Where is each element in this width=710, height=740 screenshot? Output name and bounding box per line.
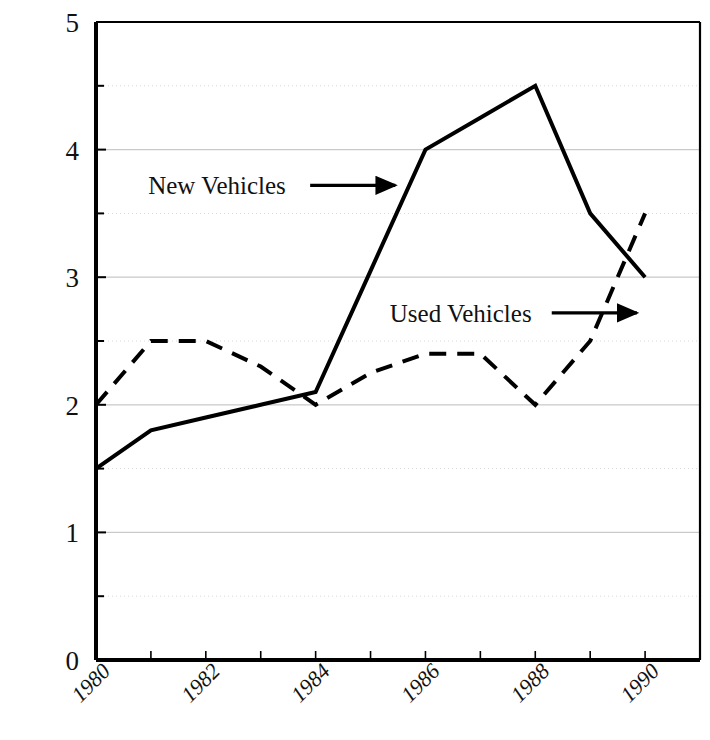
chart-container: 012345 198019821984198619881990 New Vehi… bbox=[0, 0, 710, 740]
y-tick-label: 5 bbox=[66, 8, 80, 38]
line-chart: 012345 198019821984198619881990 New Vehi… bbox=[0, 0, 710, 740]
annotation-label: New Vehicles bbox=[148, 172, 286, 199]
y-tick-label: 2 bbox=[66, 391, 80, 421]
y-tick-label: 1 bbox=[66, 518, 80, 548]
y-tick-label: 0 bbox=[66, 646, 80, 676]
y-tick-label: 3 bbox=[66, 263, 80, 293]
annotation-label: Used Vehicles bbox=[390, 300, 532, 327]
y-tick-label: 4 bbox=[66, 136, 80, 166]
chart-background bbox=[0, 0, 710, 740]
